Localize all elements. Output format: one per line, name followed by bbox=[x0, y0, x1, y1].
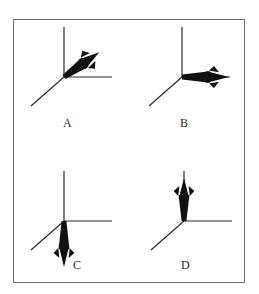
arrow-head bbox=[59, 245, 70, 267]
arrow-shaft bbox=[182, 71, 210, 83]
panel-label-b: B bbox=[180, 117, 188, 129]
panel-a-diagram bbox=[16, 21, 126, 116]
panel-b-diagram bbox=[132, 21, 242, 116]
arrow-shaft bbox=[59, 221, 70, 249]
panel-d bbox=[132, 165, 242, 270]
figure-root: A B bbox=[0, 0, 259, 294]
panel-a bbox=[16, 21, 126, 116]
panel-c bbox=[16, 165, 126, 270]
arrow-head bbox=[206, 71, 229, 83]
arrow-barb-upper bbox=[174, 186, 180, 196]
x-axis-line bbox=[151, 221, 184, 250]
axis-triad-c bbox=[31, 171, 112, 250]
arrow-head bbox=[179, 178, 190, 199]
arrow-barb-upper bbox=[209, 66, 219, 72]
vector-arrow-b bbox=[182, 66, 229, 88]
panel-label-a: A bbox=[63, 117, 72, 129]
vector-arrow-a bbox=[58, 43, 106, 86]
panel-d-diagram bbox=[132, 165, 242, 270]
arrow-barb-upper bbox=[69, 248, 75, 258]
panel-label-d: D bbox=[181, 259, 190, 271]
panel-label-c: C bbox=[73, 259, 81, 271]
axis-triad-d bbox=[151, 171, 232, 250]
x-axis-line bbox=[31, 77, 64, 106]
arrow-barb-lower bbox=[54, 248, 60, 258]
axis-triad-b bbox=[149, 27, 230, 106]
vector-arrow-d bbox=[174, 178, 195, 221]
x-axis-line bbox=[149, 77, 182, 106]
axis-triad-a bbox=[31, 27, 112, 106]
arrow-barb-lower bbox=[209, 82, 219, 88]
panel-b bbox=[132, 21, 242, 116]
arrow-barb-lower bbox=[189, 186, 195, 196]
panel-c-diagram bbox=[16, 165, 126, 270]
